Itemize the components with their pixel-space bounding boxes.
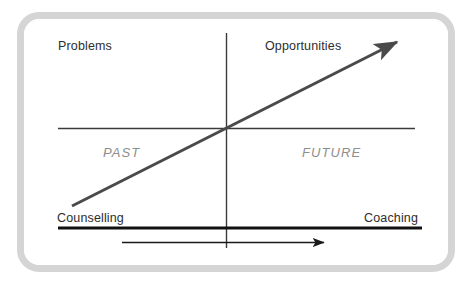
label-coaching: Coaching bbox=[364, 212, 418, 225]
label-opportunities: Opportunities bbox=[265, 40, 341, 53]
label-past: PAST bbox=[103, 146, 140, 159]
trend-arrow bbox=[72, 42, 397, 206]
label-future: FUTURE bbox=[302, 146, 361, 159]
diagram-canvas: Problems Opportunities Counselling Coach… bbox=[0, 0, 472, 289]
label-counselling: Counselling bbox=[57, 212, 124, 225]
label-problems: Problems bbox=[58, 40, 112, 53]
